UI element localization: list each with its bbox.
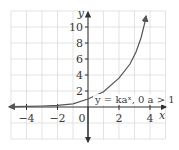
y-tick-label: 10 — [69, 21, 83, 34]
x-tick-label: 0 — [79, 112, 86, 125]
exponential-chart: −4 −2 0 2 4 2 4 6 8 10 y x y = kaˣ, 0 a … — [0, 0, 179, 150]
x-tick-label: −2 — [49, 112, 65, 125]
y-axis-label: y — [77, 7, 85, 20]
y-tick-label: 8 — [76, 37, 83, 50]
x-tick-label: −4 — [18, 112, 34, 125]
y-tick-labels: 2 4 6 8 10 — [69, 21, 83, 98]
curve-annotation: y = kaˣ, 0 a > 1 — [94, 94, 175, 105]
x-axis-label: x — [159, 109, 166, 122]
x-tick-label: 4 — [147, 112, 154, 125]
x-tick-label: 2 — [116, 112, 123, 125]
y-tick-label: 2 — [76, 85, 83, 98]
y-tick-label: 4 — [76, 69, 83, 82]
y-tick-label: 6 — [76, 53, 83, 66]
